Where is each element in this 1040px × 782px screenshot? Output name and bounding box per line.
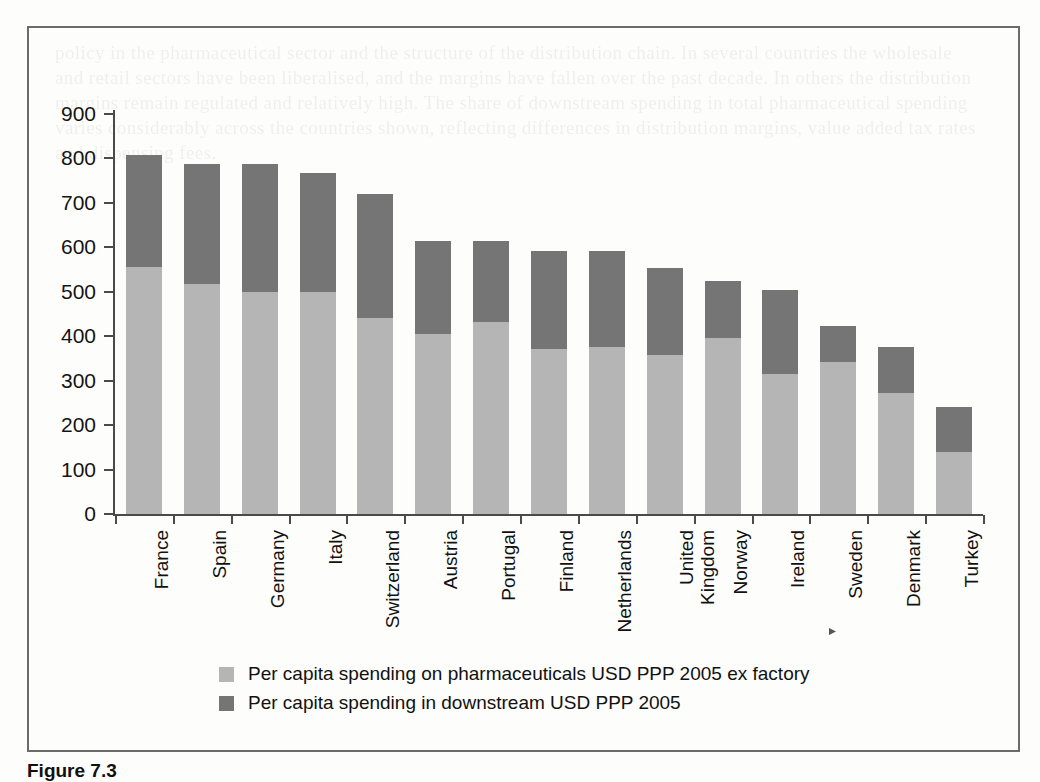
bar-segment-downstream[interactable] bbox=[762, 290, 798, 374]
x-axis-tick bbox=[346, 515, 348, 524]
x-axis-tick bbox=[520, 515, 522, 524]
bar-segment-ex-factory[interactable] bbox=[820, 362, 856, 514]
bar-group[interactable] bbox=[531, 0, 567, 514]
x-axis-tick bbox=[694, 515, 696, 524]
bar-group[interactable] bbox=[357, 0, 393, 514]
bar-segment-downstream[interactable] bbox=[705, 281, 741, 338]
x-axis-tick bbox=[173, 515, 175, 524]
bar-group[interactable] bbox=[762, 0, 798, 514]
bar-segment-downstream[interactable] bbox=[473, 241, 509, 322]
x-axis-category-label: Sweden bbox=[846, 530, 866, 599]
bar-group[interactable] bbox=[415, 0, 451, 514]
bar-segment-ex-factory[interactable] bbox=[647, 355, 683, 514]
bar-group[interactable] bbox=[705, 0, 741, 514]
bar-group[interactable] bbox=[647, 0, 683, 514]
bar-segment-downstream[interactable] bbox=[126, 155, 162, 267]
bar-segment-downstream[interactable] bbox=[242, 164, 278, 292]
x-axis-tick bbox=[752, 515, 754, 524]
bar-segment-ex-factory[interactable] bbox=[357, 318, 393, 514]
y-axis-tick bbox=[104, 513, 115, 515]
x-axis-tick bbox=[462, 515, 464, 524]
x-axis-tick bbox=[231, 515, 233, 524]
bar-segment-downstream[interactable] bbox=[936, 407, 972, 451]
y-axis-line bbox=[113, 110, 115, 516]
bar-group[interactable] bbox=[820, 0, 856, 514]
bar-segment-ex-factory[interactable] bbox=[242, 292, 278, 514]
bar-segment-downstream[interactable] bbox=[589, 251, 625, 347]
legend-swatch-downstream bbox=[219, 696, 234, 711]
bar-segment-ex-factory[interactable] bbox=[300, 292, 336, 514]
x-axis-category-label: Germany bbox=[268, 530, 288, 608]
y-axis-tick-label: 100 bbox=[44, 458, 96, 482]
y-axis-tick-label: 300 bbox=[44, 369, 96, 393]
y-axis-tick-label: 600 bbox=[44, 235, 96, 259]
x-axis-tick bbox=[578, 515, 580, 524]
bar-group[interactable] bbox=[936, 0, 972, 514]
y-axis-tick-label: 500 bbox=[44, 280, 96, 304]
legend-item: Per capita spending in downstream USD PP… bbox=[219, 692, 810, 714]
bar-segment-downstream[interactable] bbox=[357, 194, 393, 318]
x-axis-category-label: Portugal bbox=[499, 530, 519, 601]
bar-segment-ex-factory[interactable] bbox=[936, 452, 972, 514]
x-axis-category-label: Austria bbox=[441, 530, 461, 589]
legend-item-label: Per capita spending in downstream USD PP… bbox=[248, 692, 681, 714]
bar-segment-ex-factory[interactable] bbox=[878, 393, 914, 514]
y-axis-tick-label: 200 bbox=[44, 413, 96, 437]
bar-segment-ex-factory[interactable] bbox=[473, 322, 509, 514]
bar-segment-downstream[interactable] bbox=[300, 173, 336, 292]
y-axis-tick bbox=[104, 113, 115, 115]
bar-segment-ex-factory[interactable] bbox=[531, 349, 567, 514]
y-axis-tick-label: 700 bbox=[44, 191, 96, 215]
bar-segment-downstream[interactable] bbox=[820, 326, 856, 362]
x-axis-category-label: United Kingdom bbox=[676, 530, 718, 605]
bar-segment-ex-factory[interactable] bbox=[415, 334, 451, 514]
legend-swatch-ex-factory bbox=[219, 667, 234, 682]
legend-item: Per capita spending on pharmaceuticals U… bbox=[219, 663, 810, 685]
bar-segment-ex-factory[interactable] bbox=[762, 374, 798, 514]
x-axis-tick bbox=[404, 515, 406, 524]
x-axis-category-label: Finland bbox=[557, 530, 577, 592]
y-axis-tick-label: 800 bbox=[44, 146, 96, 170]
legend-item-label: Per capita spending on pharmaceuticals U… bbox=[248, 663, 810, 685]
bar-segment-ex-factory[interactable] bbox=[184, 284, 220, 514]
x-axis-category-label: Spain bbox=[210, 530, 230, 579]
x-axis-category-label: Netherlands bbox=[615, 530, 635, 632]
chart-legend: Per capita spending on pharmaceuticals U… bbox=[219, 663, 810, 721]
bar-segment-ex-factory[interactable] bbox=[126, 267, 162, 514]
x-axis-tick bbox=[636, 515, 638, 524]
y-axis-tick bbox=[104, 157, 115, 159]
bar-segment-downstream[interactable] bbox=[531, 251, 567, 349]
figure-caption: Figure 7.3 bbox=[27, 760, 117, 782]
y-axis-tick bbox=[104, 469, 115, 471]
y-axis-tick-label: 400 bbox=[44, 324, 96, 348]
bar-segment-ex-factory[interactable] bbox=[705, 338, 741, 514]
bar-segment-downstream[interactable] bbox=[647, 268, 683, 356]
bar-group[interactable] bbox=[589, 0, 625, 514]
x-axis-category-label: Italy bbox=[326, 530, 346, 565]
x-axis-category-label: Switzerland bbox=[383, 530, 403, 628]
bar-segment-ex-factory[interactable] bbox=[589, 347, 625, 514]
y-axis-tick-label: 900 bbox=[44, 102, 96, 126]
figure-caption-label: Figure 7.3 bbox=[27, 760, 117, 781]
x-axis-category-label: Denmark bbox=[904, 530, 924, 607]
bar-group[interactable] bbox=[184, 0, 220, 514]
x-axis-category-label: Norway bbox=[731, 530, 751, 594]
x-axis-category-label: Turkey bbox=[962, 530, 982, 587]
bar-segment-downstream[interactable] bbox=[878, 347, 914, 393]
x-axis-tick bbox=[289, 515, 291, 524]
bar-group[interactable] bbox=[126, 0, 162, 514]
x-axis-tick bbox=[867, 515, 869, 524]
y-axis-tick bbox=[104, 424, 115, 426]
bar-group[interactable] bbox=[878, 0, 914, 514]
bar-group[interactable] bbox=[242, 0, 278, 514]
y-axis-tick bbox=[104, 246, 115, 248]
bar-group[interactable] bbox=[300, 0, 336, 514]
y-axis-tick-label: 0 bbox=[44, 502, 96, 526]
bar-segment-downstream[interactable] bbox=[184, 164, 220, 284]
bar-group[interactable] bbox=[473, 0, 509, 514]
bar-segment-downstream[interactable] bbox=[415, 241, 451, 334]
x-axis-tick bbox=[925, 515, 927, 524]
x-axis-category-label: France bbox=[152, 530, 172, 589]
y-axis-tick bbox=[104, 380, 115, 382]
